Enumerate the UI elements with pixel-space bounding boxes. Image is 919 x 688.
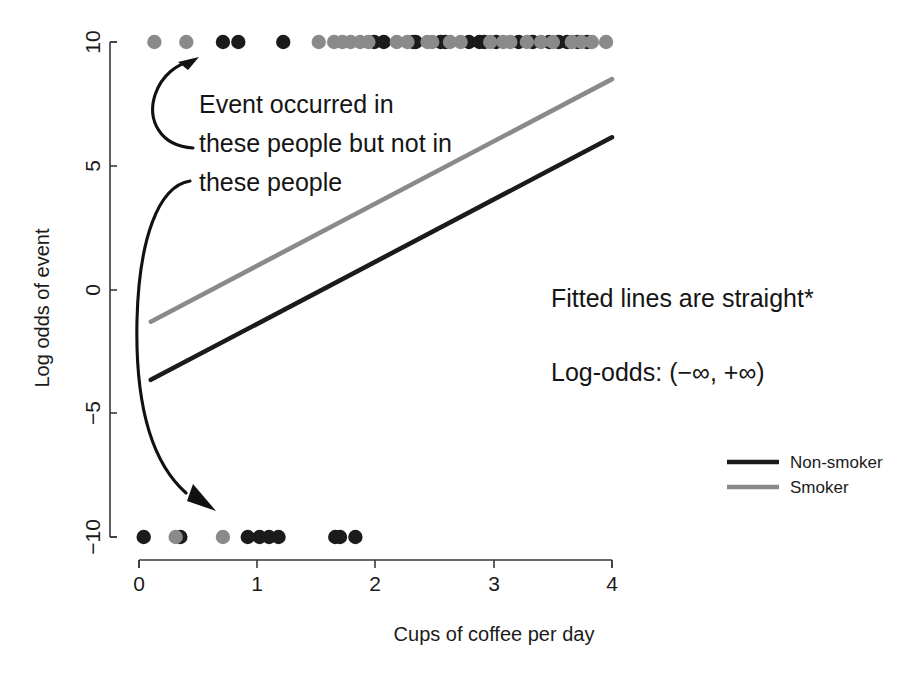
chart-figure: 10 5 0 −5 −10 Log odds of event 0 1 2 3 … — [0, 0, 919, 688]
y-axis-ticks — [110, 42, 117, 537]
y-tick-label-neg5: −5 — [81, 401, 104, 425]
scatter-point — [520, 35, 534, 49]
lower-annotation-arrow — [137, 181, 216, 511]
x-axis-title: Cups of coffee per day — [394, 623, 595, 645]
x-tick-label-0: 0 — [133, 572, 145, 595]
annotation-fitted-lines: Fitted lines are straight* — [551, 284, 814, 312]
annotation-log-odds-range: Log-odds: (−∞, +∞) — [551, 358, 765, 386]
annotation-event-line1: Event occurred in — [199, 90, 394, 118]
scatter-point — [483, 35, 497, 49]
scatter-points-no-event — [137, 530, 363, 544]
scatter-point — [400, 35, 414, 49]
y-axis-title: Log odds of event — [31, 228, 53, 387]
scatter-point — [348, 530, 362, 544]
scatter-point — [271, 530, 285, 544]
scatter-point — [147, 35, 161, 49]
scatter-point — [276, 35, 290, 49]
scatter-point — [453, 35, 467, 49]
fitted-lines-group — [151, 79, 612, 380]
scatter-point — [231, 35, 245, 49]
scatter-point — [312, 35, 326, 49]
annotation-event-line3: these people — [199, 168, 342, 196]
y-tick-label-5: 5 — [81, 160, 104, 172]
x-tick-label-1: 1 — [251, 572, 263, 595]
legend-label-smoker: Smoker — [790, 478, 849, 497]
upper-arrow-head — [178, 57, 199, 70]
scatter-point — [216, 35, 230, 49]
scatter-point — [585, 35, 599, 49]
scatter-point — [361, 35, 375, 49]
scatter-point — [503, 35, 517, 49]
lower-arrow-head — [187, 484, 216, 511]
y-tick-label-0: 0 — [81, 284, 104, 296]
y-tick-label-10: 10 — [81, 30, 104, 53]
upper-annotation-arrow — [153, 57, 199, 148]
scatter-plot-canvas: 10 5 0 −5 −10 Log odds of event 0 1 2 3 … — [0, 0, 919, 688]
x-tick-label-4: 4 — [606, 572, 618, 595]
scatter-point — [137, 530, 151, 544]
x-axis-ticks — [139, 560, 612, 568]
scatter-point — [333, 530, 347, 544]
lower-arrow-curve — [137, 181, 190, 493]
x-tick-label-2: 2 — [369, 572, 381, 595]
scatter-point — [425, 35, 439, 49]
y-tick-label-neg10: −10 — [81, 519, 104, 555]
legend-label-non-smoker: Non-smoker — [790, 453, 883, 472]
scatter-point — [179, 35, 193, 49]
scatter-point — [168, 530, 182, 544]
legend: Non-smoker Smoker — [727, 453, 883, 497]
scatter-point — [216, 530, 230, 544]
annotation-event-line2: these people but not in — [199, 129, 452, 157]
scatter-point — [377, 35, 391, 49]
scatter-points-event-occurred — [147, 35, 613, 49]
x-tick-label-3: 3 — [488, 572, 500, 595]
upper-arrow-curve — [153, 61, 193, 148]
scatter-point — [599, 35, 613, 49]
scatter-point — [546, 35, 560, 49]
